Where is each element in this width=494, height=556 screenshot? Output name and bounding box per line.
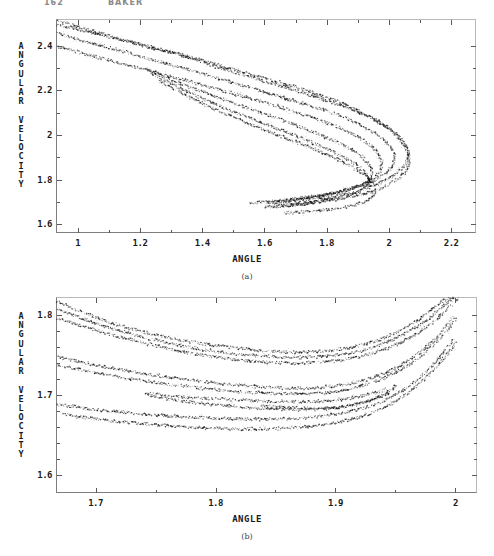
y-axis-title-char: Y [14, 450, 28, 459]
y-tick-label: 1.6 [18, 219, 52, 229]
attractor-filament [56, 24, 411, 207]
x-major-tick [202, 228, 203, 233]
y-axis-title-a: ANGULAR VELOCITY [14, 42, 28, 189]
y-major-tick [57, 180, 62, 181]
y-minor-tick-right [474, 379, 477, 380]
y-major-tick [57, 135, 62, 136]
y-major-tick-right [471, 90, 476, 91]
x-tick-label: 1.8 [196, 498, 236, 508]
attractor-filament [57, 318, 457, 396]
plot-area-a [56, 19, 476, 233]
x-major-tick [451, 228, 452, 233]
page-number: 162 [44, 0, 64, 7]
x-major-tick [335, 488, 336, 493]
y-major-tick [57, 224, 62, 225]
y-tick-label: 1.8 [18, 310, 52, 320]
x-major-tick-top [216, 298, 217, 303]
running-head-author: BAKER [108, 0, 143, 7]
x-minor-tick [296, 230, 297, 233]
y-tick-label: 2.2 [18, 85, 52, 95]
x-minor-tick [156, 490, 157, 493]
attractor-filament [56, 339, 454, 422]
x-major-tick [78, 228, 79, 233]
x-minor-tick [358, 230, 359, 233]
y-minor-tick [57, 363, 60, 364]
y-minor-tick [57, 443, 60, 444]
x-minor-tick [171, 230, 172, 233]
y-minor-tick [57, 411, 60, 412]
y-major-tick-right [472, 475, 477, 476]
y-major-tick [57, 90, 62, 91]
y-minor-tick-right [474, 459, 477, 460]
y-minor-tick-right [473, 202, 476, 203]
x-major-tick-top [96, 298, 97, 303]
attractor-filament [56, 19, 410, 208]
y-major-tick-right [471, 180, 476, 181]
y-minor-tick [57, 379, 60, 380]
y-minor-tick-right [474, 331, 477, 332]
y-major-tick-right [472, 315, 477, 316]
panel-caption-a: (a) [0, 272, 494, 281]
plot-area-b [56, 297, 477, 493]
x-tick-label: 2 [435, 498, 475, 508]
y-minor-tick [57, 202, 60, 203]
x-major-tick [389, 228, 390, 233]
x-minor-tick-top [233, 20, 234, 23]
x-major-tick-top [327, 20, 328, 25]
x-major-tick-top [78, 20, 79, 25]
x-major-tick-top [264, 20, 265, 25]
figure-panel-a: ANGULAR VELOCITY 2.42.221.81.6 11.21.41.… [0, 14, 494, 282]
figure-panel-b: ANGULAR VELOCITY 1.81.71.6 1.71.81.92 AN… [0, 288, 494, 556]
attractor-filament [57, 45, 383, 205]
x-minor-tick [395, 490, 396, 493]
strange-attractor-plot-b [57, 298, 476, 492]
x-minor-tick [275, 490, 276, 493]
x-minor-tick-top [171, 20, 172, 23]
attractor-filament [57, 31, 397, 204]
y-minor-tick-right [474, 427, 477, 428]
y-major-tick-right [471, 135, 476, 136]
x-minor-tick-top [156, 298, 157, 301]
attractor-filament [57, 316, 455, 391]
y-major-tick [57, 395, 62, 396]
x-tick-label: 1 [58, 238, 98, 248]
attractor-filament [56, 297, 454, 355]
strange-attractor-plot-a [57, 20, 475, 232]
attractor-filament [261, 384, 398, 411]
y-minor-tick-right [473, 113, 476, 114]
x-minor-tick-top [395, 298, 396, 301]
x-major-tick-top [335, 298, 336, 303]
x-major-tick [455, 488, 456, 493]
y-major-tick-right [471, 46, 476, 47]
x-minor-tick-top [420, 20, 421, 23]
page-header: 162 BAKER [0, 0, 494, 12]
panel-caption-b: (b) [0, 532, 494, 541]
x-tick-label: 1.6 [244, 238, 284, 248]
y-minor-tick-right [474, 411, 477, 412]
y-minor-tick [57, 459, 60, 460]
y-minor-tick [57, 427, 60, 428]
x-major-tick-top [451, 20, 452, 25]
y-major-tick [57, 475, 62, 476]
x-major-tick-top [140, 20, 141, 25]
x-minor-tick-top [109, 20, 110, 23]
x-tick-label: 1.4 [182, 238, 222, 248]
y-tick-label: 2.4 [18, 41, 52, 51]
y-tick-label: 1.8 [18, 175, 52, 185]
x-minor-tick-top [296, 20, 297, 23]
y-minor-tick-right [474, 347, 477, 348]
x-tick-label: 2.2 [431, 238, 471, 248]
attractor-filament [62, 341, 457, 431]
y-minor-tick [57, 157, 60, 158]
y-tick-label: 1.7 [18, 390, 52, 400]
y-tick-label: 2 [18, 130, 52, 140]
x-tick-label: 1.2 [120, 238, 160, 248]
y-minor-tick-right [474, 363, 477, 364]
y-major-tick [57, 315, 62, 316]
x-major-tick [96, 488, 97, 493]
x-minor-tick [233, 230, 234, 233]
x-tick-label: 2 [369, 238, 409, 248]
x-axis-title-a: ANGLE [0, 254, 494, 264]
y-major-tick [57, 46, 62, 47]
y-minor-tick [57, 113, 60, 114]
